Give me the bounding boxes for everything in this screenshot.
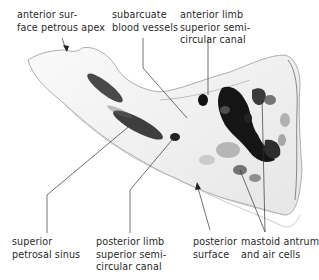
anterior-limb-opening	[198, 94, 208, 106]
bone-body	[28, 47, 302, 215]
label-posterior-surface: posterior surface	[193, 236, 237, 261]
label-superior-petrosal-sinus: superior petrosal sinus	[12, 236, 80, 261]
anatomy-diagram: anterior sur- face petrous apex subarcua…	[0, 0, 319, 280]
label-posterior-limb: posterior limb superior semi- circular c…	[96, 236, 166, 274]
label-subarcuate-vessels: subarcuate blood vessels	[112, 9, 178, 34]
label-mastoid-antrum: mastoid antrum and air cells	[241, 236, 319, 261]
posterior-limb-opening	[170, 133, 180, 141]
label-anterior-limb: anterior limb superior semi- circular ca…	[180, 9, 250, 47]
label-anterior-surface: anterior sur- face petrous apex	[17, 9, 105, 34]
